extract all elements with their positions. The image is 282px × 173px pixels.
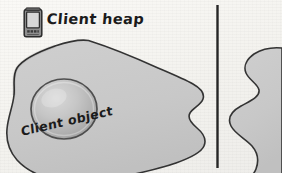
server-heap-blob [230, 48, 282, 173]
client-heap-label: Client heap [46, 12, 145, 27]
pda-device-icon [23, 7, 43, 38]
figure-canvas: Client heap Client object [0, 0, 282, 173]
